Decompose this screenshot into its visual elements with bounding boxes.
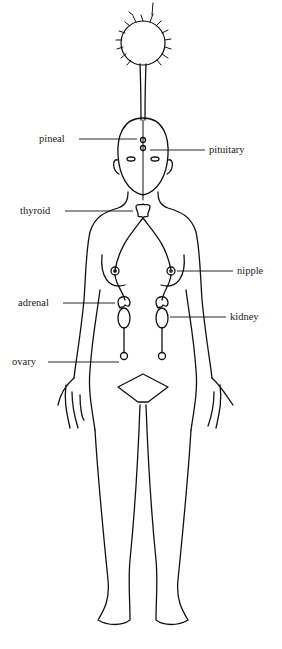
label-kidney: kidney: [230, 312, 259, 323]
label-adrenal: adrenal: [18, 298, 49, 309]
label-ovary: ovary: [12, 357, 36, 368]
label-pituitary: pituitary: [209, 145, 245, 156]
leader-lines: [0, 0, 282, 649]
endocrine-diagram: pineal pituitary thyroid nipple adrenal …: [0, 0, 282, 649]
label-pineal: pineal: [39, 134, 65, 145]
label-nipple: nipple: [237, 266, 263, 277]
label-thyroid: thyroid: [20, 206, 50, 217]
